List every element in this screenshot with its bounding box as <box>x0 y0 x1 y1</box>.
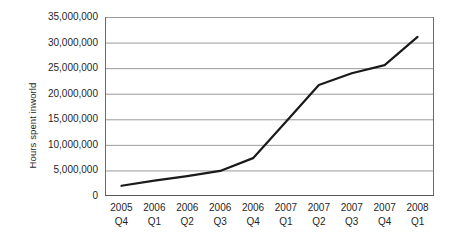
y-axis-tick-label: 20,000,000 <box>30 89 98 99</box>
y-axis-tick-label: 25,000,000 <box>30 63 98 73</box>
data-series-line <box>121 37 417 186</box>
y-axis-tick-label: 30,000,000 <box>30 38 98 48</box>
gridlines <box>105 18 434 171</box>
x-tick-quarter: Q1 <box>396 215 440 229</box>
y-axis-tick-label: 0 <box>30 191 98 201</box>
x-axis-tick-label: 2008Q1 <box>396 201 440 228</box>
plot-area <box>105 17 434 196</box>
x-axis-tick-labels: 2005Q42006Q12006Q22006Q32006Q42007Q12007… <box>105 201 434 245</box>
y-axis-tick-labels: 05,000,00010,000,00015,000,00020,000,000… <box>30 0 98 251</box>
y-axis-tick-label: 15,000,000 <box>30 114 98 124</box>
x-tick-year: 2008 <box>396 201 440 215</box>
y-axis-tick-label: 35,000,000 <box>30 12 98 22</box>
y-axis-tick-label: 5,000,000 <box>30 165 98 175</box>
line-chart-figure: Hours spent inworld 05,000,00010,000,000… <box>0 0 460 251</box>
plot-svg <box>105 17 434 196</box>
y-axis-tick-label: 10,000,000 <box>30 140 98 150</box>
